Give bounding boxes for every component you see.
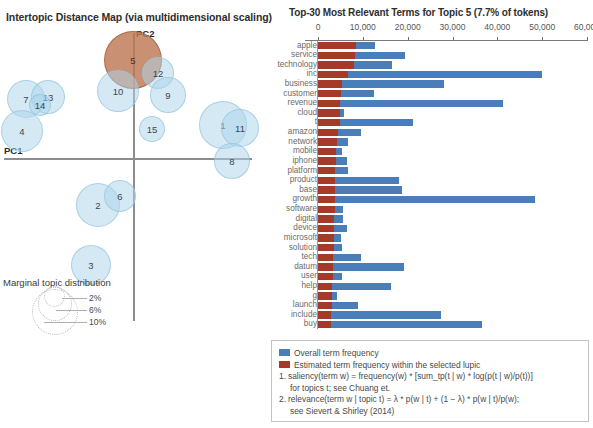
- topic-bubble-label-5: 5: [130, 55, 135, 66]
- topic-frequency-bar: [318, 109, 340, 116]
- saliency-formula: 1.saliency(term w) = frequency(w) * [sum…: [279, 371, 581, 383]
- topic-frequency-bar: [318, 61, 354, 68]
- marginal-distribution-key: 2% 6% 10%: [32, 289, 142, 335]
- term-label-user[interactable]: user: [301, 271, 317, 281]
- topic-frequency-bar: [318, 244, 334, 251]
- legend-item-topic: Estimated term frequency within the sele…: [279, 359, 581, 370]
- legend-label-topic: Estimated term frequency within the sele…: [294, 360, 480, 370]
- topic-frequency-bar: [318, 100, 340, 107]
- x-tick-label-0: 0: [316, 22, 321, 32]
- size-key-leader-6: [56, 310, 87, 311]
- term-label-launch[interactable]: launch: [293, 300, 317, 310]
- topic-bubble-label-8: 8: [229, 156, 234, 167]
- topic-bubble-label-7: 7: [23, 94, 28, 105]
- term-label-help[interactable]: help: [302, 281, 317, 291]
- x-tick-label-10000: 10,000: [350, 22, 376, 32]
- saliency-formula-citation: for topics t; see Chuang et.: [279, 383, 581, 395]
- overall-frequency-swatch-icon: [279, 349, 290, 356]
- term-label-buy[interactable]: buy: [304, 319, 317, 329]
- size-key-leader-2: [62, 298, 87, 299]
- bar-chart-plot: 010,00020,00030,00040,00050,00060,000 ap…: [265, 22, 593, 332]
- term-label-growth[interactable]: growth: [292, 194, 317, 204]
- topic-frequency-bar: [318, 273, 333, 280]
- topic-frequency-bar: [318, 254, 333, 261]
- topic-frequency-bar: [318, 186, 335, 193]
- term-label-t[interactable]: t: [315, 117, 317, 127]
- term-label-include[interactable]: include: [291, 310, 317, 320]
- x-tick-label-30000: 30,000: [440, 22, 466, 32]
- legend-item-overall: Overall term frequency: [279, 347, 581, 358]
- bar-row[interactable]: buy: [265, 320, 593, 330]
- bar-chart-title: Top-30 Most Relevant Terms for Topic 5 (…: [289, 7, 548, 18]
- bar-rows: appleservicetechnologyincbusinesscustome…: [265, 41, 593, 331]
- topic-bubble-label-14: 14: [35, 100, 46, 111]
- topic-frequency-bar: [318, 90, 341, 97]
- topic-bubble-label-10: 10: [113, 86, 124, 97]
- topic-frequency-bar: [318, 215, 334, 222]
- topic-frequency-bar: [318, 196, 335, 203]
- term-label-base[interactable]: base: [299, 185, 317, 195]
- chart-legend: Overall term frequency Estimated term fr…: [271, 340, 589, 422]
- topic-bubble-label-9: 9: [165, 90, 170, 101]
- topic-frequency-bar: [318, 311, 331, 318]
- overall-frequency-bar: [318, 100, 503, 107]
- term-label-digital[interactable]: digital: [296, 214, 317, 224]
- topic-frequency-bar: [318, 148, 336, 155]
- topic-frequency-bar: [318, 42, 356, 49]
- intertopic-distance-map-panel: Intertopic Distance Map (via multidimens…: [0, 0, 296, 428]
- term-label-amazon[interactable]: amazon: [288, 127, 317, 137]
- size-key-circle-small: [44, 286, 65, 307]
- term-label-solution[interactable]: solution: [289, 243, 317, 253]
- size-key-label-2: 2%: [89, 293, 101, 303]
- topic-frequency-bar: [318, 302, 332, 309]
- term-label-microsoft[interactable]: microsoft: [284, 233, 317, 243]
- size-key-leader-10: [44, 322, 87, 323]
- topic-frequency-bar: [318, 52, 355, 59]
- term-label-apple[interactable]: apple: [297, 41, 317, 51]
- topic-bubble-label-11: 11: [235, 123, 245, 134]
- topic-bubble-label-3: 3: [88, 260, 93, 271]
- topic-frequency-bar: [318, 283, 332, 290]
- term-label-cloud[interactable]: cloud: [297, 108, 317, 118]
- term-label-customer[interactable]: customer: [283, 89, 317, 99]
- term-label-g[interactable]: g: [312, 291, 317, 301]
- size-key-label-6: 6%: [89, 305, 101, 315]
- ldavis-visualization: Intertopic Distance Map (via multidimens…: [0, 0, 593, 428]
- term-label-platform[interactable]: platform: [287, 166, 317, 176]
- saliency-formula-text: saliency(term w) = frequency(w) * [sum_t…: [288, 371, 533, 381]
- term-label-inc[interactable]: inc: [307, 69, 317, 79]
- topic-frequency-bar: [318, 225, 334, 232]
- term-label-network[interactable]: network: [288, 137, 317, 147]
- topic-frequency-bar: [318, 167, 335, 174]
- term-label-revenue[interactable]: revenue: [287, 98, 317, 108]
- topic-frequency-bar: [318, 138, 337, 145]
- x-tick-label-50000: 50,000: [529, 22, 555, 32]
- topic-frequency-bar: [318, 321, 331, 328]
- term-label-software[interactable]: software: [286, 204, 317, 214]
- topic-bubble-label-15: 15: [147, 124, 158, 135]
- topic-frequency-bar: [318, 234, 334, 241]
- relevance-formula-number: 2.: [279, 394, 288, 406]
- topic-frequency-bar: [318, 157, 336, 164]
- overall-frequency-bar: [318, 311, 441, 318]
- term-label-tech[interactable]: tech: [302, 252, 317, 262]
- topic-frequency-bar: [318, 177, 335, 184]
- term-label-product[interactable]: product: [290, 175, 317, 185]
- term-label-datum[interactable]: datum: [294, 262, 317, 272]
- x-tick-label-60000: 60,000: [574, 22, 593, 32]
- term-label-mobile[interactable]: mobile: [293, 146, 317, 156]
- term-label-service[interactable]: service: [291, 50, 317, 60]
- map-title: Intertopic Distance Map (via multidimens…: [6, 11, 272, 23]
- term-label-iphone[interactable]: iphone: [292, 156, 317, 166]
- topic-frequency-bar: [318, 129, 338, 136]
- term-label-business[interactable]: business: [285, 79, 317, 89]
- topic-frequency-bar: [318, 263, 333, 270]
- relevance-formula: 2.relevance(term w | topic t) = λ * p(w …: [279, 394, 581, 406]
- relevance-formula-text: relevance(term w | topic t) = λ * p(w | …: [288, 394, 519, 404]
- overall-frequency-bar: [318, 196, 535, 203]
- topic-frequency-bar: [318, 119, 340, 126]
- term-label-technology[interactable]: technology: [277, 60, 317, 70]
- overall-frequency-bar: [318, 71, 542, 78]
- term-label-device[interactable]: device: [293, 223, 317, 233]
- x-tick-label-20000: 20,000: [395, 22, 421, 32]
